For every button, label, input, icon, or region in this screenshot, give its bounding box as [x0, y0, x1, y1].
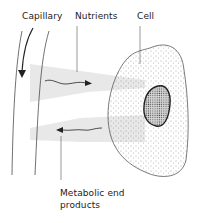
- arrowhead-icon: [18, 70, 26, 78]
- diagram-canvas: Capillary Nutrients Cell Metabolic end p…: [0, 0, 199, 223]
- capillary-wall-right: [35, 31, 49, 175]
- cell-label: Cell: [137, 11, 154, 21]
- metabolic-label-line1: Metabolic end: [60, 188, 125, 198]
- capillary-wall-left: [12, 31, 22, 175]
- metabolic-label-line2: products: [60, 200, 100, 210]
- nutrients-label: Nutrients: [75, 11, 118, 21]
- capillary-label: Capillary: [22, 11, 62, 21]
